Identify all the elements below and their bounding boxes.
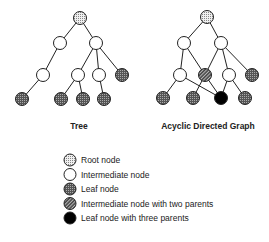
tree-diagram [16,12,129,106]
legend-label: Leaf node [81,184,119,194]
intermediate-node [93,69,106,82]
intermediate-node [37,69,50,82]
three-parents-node [215,92,228,105]
dag-diagram [157,11,259,105]
intermediate-node [178,37,191,50]
legend-root-icon [64,154,76,166]
intermediate-node [215,37,228,50]
legend-label: Intermediate node with two parents [81,199,213,209]
dag-label: Acyclic Directed Graph [161,121,255,131]
root-node [74,12,87,25]
intermediate-node [90,37,103,50]
leaf-node [246,69,259,82]
leaf-node [187,92,200,105]
two-parents-node [199,69,212,82]
legend-label: Intermediate node [81,170,150,180]
intermediate-node [223,69,236,82]
leaf-node [239,92,252,105]
intermediate-node [54,37,67,50]
intermediate-node [72,69,85,82]
diagram-canvas: Tree Acyclic Directed Graph Root nodeInt… [0,0,269,242]
legend-leaf-icon [64,183,76,195]
legend: Root nodeIntermediate nodeLeaf nodeInter… [64,154,213,224]
leaf-node [16,93,29,106]
legend-label: Root node [81,155,120,165]
legend-three-parents-icon [64,212,76,224]
tree-label: Tree [70,121,88,131]
leaf-node [55,93,68,106]
intermediate-node [174,69,187,82]
leaf-node [77,93,90,106]
legend-intermediate-icon [64,169,76,181]
legend-label: Leaf node with three parents [81,213,189,223]
legend-two-parents-icon [64,198,76,210]
leaf-node [116,69,129,82]
root-node [201,11,214,24]
leaf-node [157,92,170,105]
leaf-node [98,93,111,106]
